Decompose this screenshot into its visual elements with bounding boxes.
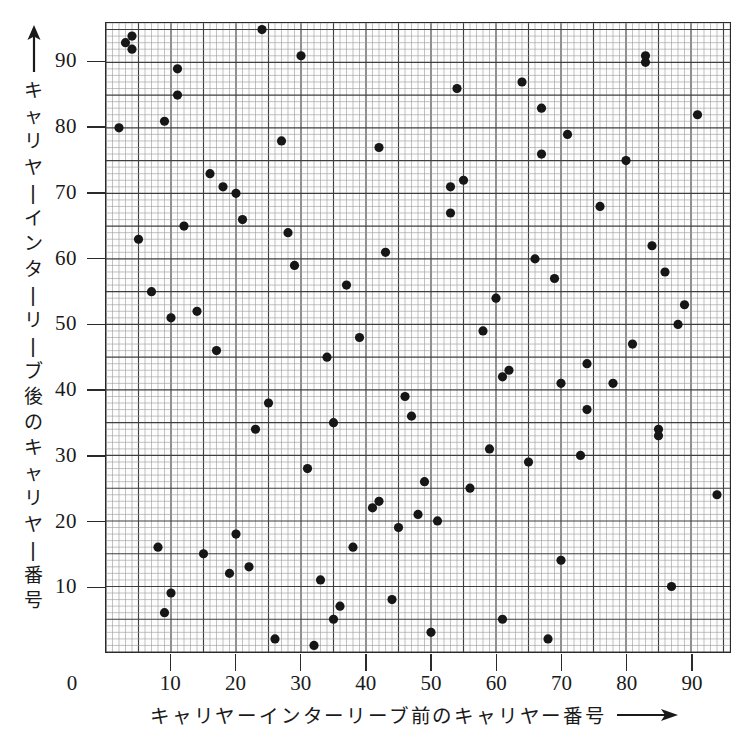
y-axis-title-char: ブ	[20, 359, 46, 385]
x-tick-label: 80	[607, 672, 647, 694]
y-axis-title-char: 後	[20, 384, 46, 410]
x-tick-label: 10	[150, 672, 190, 694]
y-axis-title: キャリヤ|インタ|リ|ブ後のキャリヤ|番号	[20, 78, 46, 614]
y-tick-label: 70	[55, 182, 77, 203]
x-tick-mark	[626, 654, 627, 671]
y-axis-title-char: 番	[20, 563, 46, 589]
x-tick-mark	[496, 654, 497, 671]
x-tick-label: 70	[541, 672, 581, 694]
x-tick-mark	[170, 654, 171, 671]
y-tick-label: 60	[55, 248, 77, 269]
x-axis-title: キャリヤーインターリーブ前のキャリヤー番号	[150, 700, 679, 729]
x-tick-mark	[561, 654, 562, 671]
x-tick-mark	[365, 654, 366, 671]
y-axis-title-char: ャ	[20, 461, 46, 487]
x-tick-mark	[691, 654, 692, 671]
x-tick-mark	[300, 654, 301, 671]
y-tick-mark	[87, 521, 105, 522]
y-axis-title-char: の	[20, 410, 46, 436]
y-tick-mark	[87, 61, 105, 62]
y-tick-label: 30	[55, 445, 77, 466]
right-arrow-icon	[617, 707, 679, 723]
y-tick-label: 40	[55, 379, 77, 400]
y-axis-title-char: ン	[20, 231, 46, 257]
x-tick-label: 90	[672, 672, 712, 694]
x-tick-mark	[235, 654, 236, 671]
data-points	[106, 23, 730, 652]
y-axis-title-char: ャ	[20, 104, 46, 130]
y-tick-mark	[87, 258, 105, 259]
y-tick-mark	[87, 389, 105, 390]
y-axis-title-char: ヤ	[20, 512, 46, 538]
y-tick-label: 20	[55, 511, 77, 532]
y-axis-title-char: タ	[20, 257, 46, 283]
y-tick-mark	[87, 126, 105, 127]
x-tick-label: 30	[281, 672, 321, 694]
scatter-plot-figure: キャリヤ|インタ|リ|ブ後のキャリヤ|番号 908070605040302010…	[0, 0, 748, 750]
y-tick-mark	[87, 455, 105, 456]
y-tick-label: 90	[55, 50, 77, 71]
y-tick-label: 10	[55, 576, 77, 597]
y-tick-mark	[87, 192, 105, 193]
y-axis-title-char: リ	[20, 486, 46, 512]
y-axis-title-char: キ	[20, 78, 46, 104]
y-axis-title-char: 号	[20, 588, 46, 614]
y-axis-title-char: キ	[20, 435, 46, 461]
y-tick-mark	[87, 324, 105, 325]
up-arrow-icon	[22, 24, 46, 72]
y-axis-title-char: リ	[20, 308, 46, 334]
y-axis-title-char: |	[20, 537, 46, 563]
y-axis-title-char: ヤ	[20, 155, 46, 181]
x-tick-label: 40	[346, 672, 386, 694]
x-origin-label: 0	[52, 672, 92, 694]
x-axis-title-text: キャリヤーインターリーブ前のキャリヤー番号	[150, 700, 607, 729]
x-tick-label: 50	[411, 672, 451, 694]
x-tick-mark	[430, 654, 431, 671]
y-tick-label: 80	[55, 116, 77, 137]
plot-area	[105, 22, 731, 653]
y-axis-title-char: |	[20, 282, 46, 308]
y-tick-mark	[87, 587, 105, 588]
y-axis-title-char: イ	[20, 206, 46, 232]
x-tick-label: 20	[215, 672, 255, 694]
y-axis-title-char: |	[20, 180, 46, 206]
y-tick-label: 50	[55, 313, 77, 334]
y-axis-title-char: |	[20, 333, 46, 359]
x-tick-label: 60	[476, 672, 516, 694]
y-axis-title-char: リ	[20, 129, 46, 155]
